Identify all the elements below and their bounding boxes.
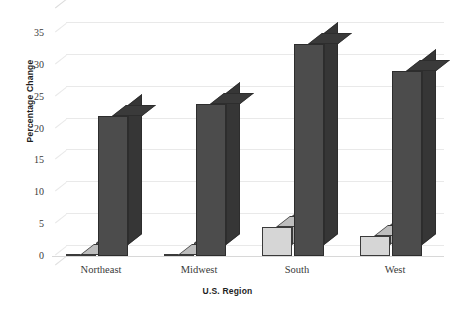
- bar-front-face: [360, 236, 390, 256]
- y-tick-label: 5: [18, 219, 44, 229]
- y-tick-label: 35: [18, 28, 44, 38]
- bars-container: [52, 14, 444, 260]
- bar-group: [52, 14, 150, 260]
- bar[interactable]: [164, 255, 194, 256]
- x-tick-label: Northeast: [52, 264, 150, 275]
- y-tick-label: 10: [18, 187, 44, 197]
- y-tick-label: 30: [18, 60, 44, 70]
- bar[interactable]: [360, 236, 390, 256]
- bar[interactable]: [294, 44, 324, 256]
- bar-side-face: [324, 22, 338, 245]
- y-tick-label: 20: [18, 124, 44, 134]
- y-tick-label: 0: [18, 251, 44, 261]
- bar-group: [150, 14, 248, 260]
- bar[interactable]: [66, 255, 96, 256]
- bar-chart: Percentage Change 05101520253035 Northea…: [0, 0, 455, 310]
- bar-front-face: [392, 71, 422, 256]
- x-tick-label: Midwest: [150, 264, 248, 275]
- bar[interactable]: [262, 227, 292, 256]
- bar-front-face: [262, 227, 292, 256]
- plot-top-border-riser: [55, 0, 67, 8]
- x-axis-title: U.S. Region: [0, 286, 455, 296]
- bar-side-face: [128, 94, 142, 245]
- plot-area: [52, 14, 444, 260]
- x-tick-label: South: [248, 264, 346, 275]
- bar-front-face: [196, 104, 226, 256]
- y-tick-label: 25: [18, 92, 44, 102]
- x-axis-tick-labels: NortheastMidwestSouthWest: [52, 264, 444, 282]
- bar[interactable]: [98, 116, 128, 256]
- bar-group: [346, 14, 444, 260]
- bar-group: [248, 14, 346, 260]
- bar-front-face: [294, 44, 324, 256]
- bar[interactable]: [196, 104, 226, 256]
- y-axis-tick-labels: 05101520253035: [18, 0, 44, 310]
- x-tick-label: West: [346, 264, 444, 275]
- y-tick-label: 15: [18, 155, 44, 165]
- bar-top-face: [406, 60, 450, 71]
- bar-front-face: [98, 116, 128, 256]
- bar-side-face: [422, 49, 436, 245]
- bar-side-face: [226, 82, 240, 245]
- bar[interactable]: [392, 71, 422, 256]
